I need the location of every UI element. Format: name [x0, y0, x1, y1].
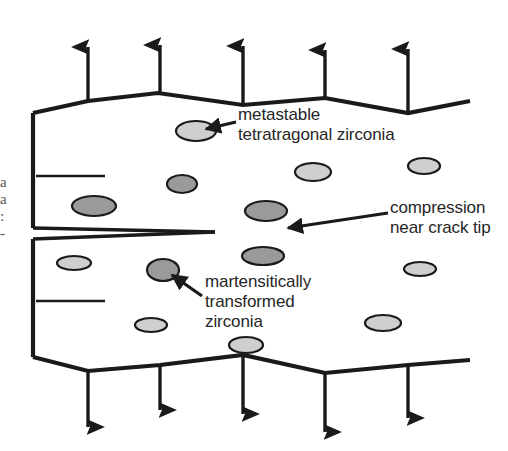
crack-lower-flank: [33, 232, 215, 239]
bottom-surface: [33, 355, 470, 373]
particle-transformed: [167, 175, 197, 193]
leader-arrow-martensitic: [172, 275, 202, 296]
annotation-metastable-tetragonal-zirconia: metastable tetratragonal zirconia: [238, 105, 395, 145]
particle-transformed: [242, 247, 284, 265]
leader-arrow-compression: [288, 213, 388, 228]
particle-metastable: [57, 256, 91, 270]
clipped-edge-text: a a : -: [0, 174, 7, 242]
particle-transformed: [72, 196, 116, 216]
annotation-compression-near-crack-tip: compression near crack tip: [390, 198, 491, 238]
annotation-martensitically-transformed-zirconia: martensitically transformed zirconia: [205, 272, 311, 332]
particle-metastable: [365, 315, 401, 331]
figure-canvas: metastable tetratragonal zirconia compre…: [0, 0, 508, 451]
particle-metastable: [135, 318, 167, 332]
particle-metastable: [408, 158, 440, 174]
particle-metastable: [295, 163, 331, 181]
particle-metastable: [176, 121, 216, 141]
particle-metastable: [404, 262, 436, 276]
particle-transformed: [245, 201, 287, 221]
particle-metastable: [229, 337, 263, 353]
